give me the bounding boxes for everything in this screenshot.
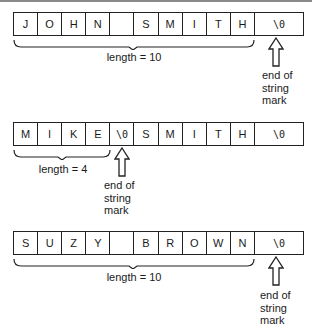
terminator-cell: \0 <box>255 13 303 35</box>
char-cell <box>110 13 134 35</box>
note-line: string <box>104 192 135 205</box>
char-cell: M <box>159 13 183 35</box>
top-rule <box>0 0 312 2</box>
char-cell: S <box>134 13 158 35</box>
null-char-cell: \0 <box>110 123 134 145</box>
char-cell: N <box>231 232 255 254</box>
char-cell: I <box>38 123 62 145</box>
char-cell: T <box>207 123 231 145</box>
char-cell: H <box>62 13 86 35</box>
length-label: length = 4 <box>39 163 88 175</box>
char-cell: S <box>134 123 158 145</box>
char-cell: M <box>159 123 183 145</box>
char-cell: N <box>86 13 110 35</box>
char-cell: K <box>62 123 86 145</box>
note-line: mark <box>260 314 291 327</box>
end-of-string-note: end of string mark <box>260 289 291 327</box>
up-arrow-icon <box>268 37 284 67</box>
char-cell: M <box>14 123 38 145</box>
note-line: mark <box>104 204 135 217</box>
length-label: length = 10 <box>107 271 162 283</box>
char-cell: U <box>38 232 62 254</box>
char-cell: S <box>14 232 38 254</box>
char-cell: Y <box>86 232 110 254</box>
length-brace <box>13 40 255 50</box>
char-cell: T <box>207 13 231 35</box>
length-brace <box>13 150 111 160</box>
string-example-mike-smith: M I K E \0 S M I T H \0 length = 4 end o… <box>0 122 312 232</box>
char-cell: H <box>231 13 255 35</box>
string-example-suzy-brown: S U Z Y B R O W N \0 length = 10 end of … <box>0 231 312 335</box>
char-array: S U Z Y B R O W N \0 <box>13 231 304 255</box>
char-cell: J <box>14 13 38 35</box>
note-line: end of <box>262 69 293 82</box>
note-line: end of <box>260 289 291 302</box>
char-array: M I K E \0 S M I T H \0 <box>13 122 304 146</box>
note-line: string <box>260 302 291 315</box>
char-array: J O H N S M I T H \0 <box>13 12 304 36</box>
char-cell: W <box>207 232 231 254</box>
end-of-string-note: end of string mark <box>104 179 135 217</box>
char-cell: E <box>86 123 110 145</box>
terminator-cell: \0 <box>255 232 303 254</box>
char-cell: I <box>183 123 207 145</box>
char-cell: H <box>231 123 255 145</box>
char-cell: I <box>183 13 207 35</box>
char-cell <box>110 232 134 254</box>
end-of-string-note: end of string mark <box>262 69 293 107</box>
up-arrow-icon <box>114 147 130 177</box>
note-line: end of <box>104 179 135 192</box>
char-cell: O <box>183 232 207 254</box>
note-line: string <box>262 82 293 95</box>
char-cell: B <box>134 232 158 254</box>
up-arrow-icon <box>268 256 284 286</box>
length-brace <box>13 259 255 269</box>
char-cell: O <box>38 13 62 35</box>
terminator-cell: \0 <box>255 123 303 145</box>
length-label: length = 10 <box>107 51 162 63</box>
string-example-john-smith: J O H N S M I T H \0 length = 10 end of … <box>0 12 312 122</box>
char-cell: R <box>159 232 183 254</box>
char-cell: Z <box>62 232 86 254</box>
note-line: mark <box>262 94 293 107</box>
